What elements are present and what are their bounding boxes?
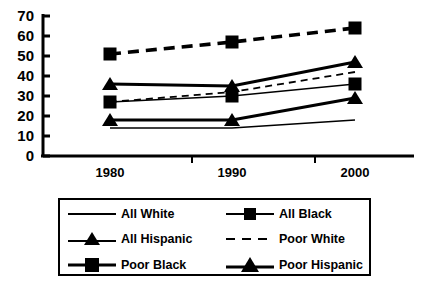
legend-swatch-solid-triangle-icon [224, 256, 276, 274]
legend-item-all-white: All White [66, 201, 174, 227]
legend-swatch-solid-triangle-icon [66, 230, 118, 248]
legend-label: All White [121, 207, 174, 221]
legend-label: All Hispanic [121, 232, 193, 246]
chart-figure: 010203040506070 198019902000 All White A… [0, 0, 428, 286]
data-point-marker [104, 48, 117, 61]
x-tick-label: 1990 [202, 165, 262, 180]
legend-item-poor-black: Poor Black [66, 252, 186, 278]
legend-label: All Black [279, 207, 332, 221]
x-tick-label: 2000 [325, 165, 385, 180]
y-tick-label: 70 [4, 7, 34, 24]
chart-legend: All White All Black All Hispanic Po [58, 198, 371, 276]
y-tick-label: 50 [4, 47, 34, 64]
legend-label: Poor Hispanic [279, 258, 363, 272]
y-tick-label: 20 [4, 107, 34, 124]
data-point-marker [349, 22, 362, 35]
y-tick-label: 40 [4, 67, 34, 84]
chart-series-layer [102, 22, 363, 129]
y-tick-label: 10 [4, 127, 34, 144]
legend-swatch-dashed-thin-icon [224, 230, 276, 248]
legend-item-all-hispanic: All Hispanic [66, 226, 193, 252]
y-tick-label: 60 [4, 27, 34, 44]
legend-item-all-black: All Black [224, 201, 332, 227]
legend-item-poor-hispanic: Poor Hispanic [224, 252, 363, 278]
legend-label: Poor White [279, 232, 345, 246]
x-tick-label: 1980 [80, 165, 140, 180]
legend-label: Poor Black [121, 258, 186, 272]
series-poor-black [104, 22, 362, 61]
data-point-marker [349, 78, 362, 91]
legend-swatch-solid-thin-icon [66, 205, 118, 223]
y-tick-label: 0 [4, 147, 34, 164]
legend-swatch-solid-square-icon [224, 205, 276, 223]
data-point-marker [226, 36, 239, 49]
legend-swatch-solid-square-icon [66, 256, 118, 274]
legend-item-poor-white: Poor White [224, 226, 345, 252]
y-tick-label: 30 [4, 87, 34, 104]
